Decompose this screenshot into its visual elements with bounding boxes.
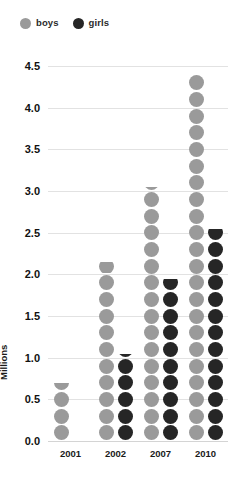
dot-chart: boys girls 0.00.51.01.52.02.53.03.54.04.… bbox=[0, 0, 234, 481]
dot-column-girls[interactable] bbox=[163, 66, 179, 441]
data-dot bbox=[144, 342, 159, 357]
y-tick-label: 2.0 bbox=[25, 268, 40, 280]
year-group bbox=[93, 66, 138, 441]
data-dot bbox=[189, 342, 204, 357]
data-dot bbox=[189, 275, 204, 290]
data-dot bbox=[189, 209, 204, 224]
data-dot bbox=[99, 275, 114, 290]
y-axis-ticks: 0.00.51.01.52.02.53.03.54.04.5 bbox=[0, 66, 44, 441]
data-dot bbox=[208, 292, 223, 307]
data-dot bbox=[144, 375, 159, 390]
data-dot bbox=[54, 392, 69, 407]
data-dot bbox=[208, 309, 223, 324]
legend-swatch-girls-icon bbox=[73, 18, 84, 29]
legend-swatch-boys-icon bbox=[20, 18, 31, 29]
data-dot bbox=[208, 425, 223, 440]
data-dot-partial bbox=[144, 187, 159, 190]
data-dot bbox=[189, 242, 204, 257]
data-dot bbox=[208, 375, 223, 390]
data-dot bbox=[99, 342, 114, 357]
y-tick-label: 1.0 bbox=[25, 352, 40, 364]
data-dot bbox=[163, 342, 178, 357]
data-dot bbox=[54, 425, 69, 440]
data-dot bbox=[144, 275, 159, 290]
legend-label-girls: girls bbox=[89, 18, 110, 28]
chart-legend: boys girls bbox=[20, 13, 109, 33]
data-dot bbox=[99, 359, 114, 374]
data-dot bbox=[99, 392, 114, 407]
y-axis-title: Millions bbox=[0, 345, 9, 380]
data-dot bbox=[163, 309, 178, 324]
y-tick-label: 4.0 bbox=[25, 102, 40, 114]
data-dot bbox=[208, 242, 223, 257]
y-tick-label: 0.0 bbox=[25, 435, 40, 447]
data-dot bbox=[144, 259, 159, 274]
dot-column-girls[interactable] bbox=[118, 66, 134, 441]
data-dot bbox=[208, 275, 223, 290]
legend-item-boys[interactable]: boys bbox=[20, 18, 59, 29]
dot-column-girls[interactable] bbox=[208, 66, 224, 441]
data-dot bbox=[118, 392, 133, 407]
data-dot bbox=[189, 225, 204, 240]
data-dot bbox=[163, 325, 178, 340]
partial-dot-clip bbox=[54, 383, 70, 391]
x-tick-label: 2002 bbox=[105, 448, 126, 459]
data-dot-partial bbox=[54, 383, 69, 391]
data-dot bbox=[163, 359, 178, 374]
data-dot bbox=[208, 359, 223, 374]
x-tick-label: 2007 bbox=[150, 448, 171, 459]
dot-column-boys[interactable] bbox=[99, 66, 115, 441]
y-tick-label: 2.5 bbox=[25, 227, 40, 239]
partial-dot-clip bbox=[163, 279, 179, 291]
data-dot bbox=[189, 325, 204, 340]
partial-dot-clip bbox=[144, 187, 160, 190]
partial-dot-clip bbox=[118, 354, 134, 357]
data-dot bbox=[189, 392, 204, 407]
data-dot bbox=[118, 409, 133, 424]
data-dot bbox=[144, 242, 159, 257]
legend-item-girls[interactable]: girls bbox=[73, 18, 110, 29]
data-dot bbox=[99, 375, 114, 390]
data-dot bbox=[189, 425, 204, 440]
partial-dot-clip bbox=[208, 229, 224, 241]
dot-column-boys[interactable] bbox=[144, 66, 160, 441]
data-dot bbox=[189, 375, 204, 390]
data-dot bbox=[163, 392, 178, 407]
data-dot bbox=[54, 409, 69, 424]
plot-area bbox=[48, 66, 228, 441]
dot-column-boys[interactable] bbox=[189, 66, 205, 441]
data-dot bbox=[144, 292, 159, 307]
partial-dot-clip bbox=[99, 262, 115, 274]
data-dot bbox=[189, 175, 204, 190]
data-dot bbox=[189, 142, 204, 157]
data-dot bbox=[189, 192, 204, 207]
data-dot bbox=[208, 259, 223, 274]
data-dot bbox=[144, 209, 159, 224]
data-dot bbox=[144, 325, 159, 340]
data-dot bbox=[189, 359, 204, 374]
data-dot bbox=[144, 309, 159, 324]
data-dot bbox=[189, 109, 204, 124]
data-dot-partial bbox=[118, 354, 133, 357]
data-dot bbox=[163, 292, 178, 307]
data-dot bbox=[99, 292, 114, 307]
data-dot bbox=[144, 192, 159, 207]
y-tick-label: 0.5 bbox=[25, 393, 40, 405]
data-dot bbox=[208, 342, 223, 357]
year-group bbox=[138, 66, 183, 441]
y-tick-label: 1.5 bbox=[25, 310, 40, 322]
legend-label-boys: boys bbox=[36, 18, 59, 28]
data-dot bbox=[99, 325, 114, 340]
dot-column-boys[interactable] bbox=[54, 66, 70, 441]
data-dot bbox=[99, 409, 114, 424]
dot-column-girls[interactable] bbox=[73, 66, 89, 441]
data-dot bbox=[189, 75, 204, 90]
data-dot bbox=[189, 159, 204, 174]
x-axis-labels: 2001200220072010 bbox=[48, 448, 228, 468]
data-dot bbox=[144, 392, 159, 407]
data-dot bbox=[189, 259, 204, 274]
data-dot bbox=[118, 359, 133, 374]
data-dot bbox=[189, 309, 204, 324]
data-dot bbox=[189, 292, 204, 307]
data-dot bbox=[163, 409, 178, 424]
